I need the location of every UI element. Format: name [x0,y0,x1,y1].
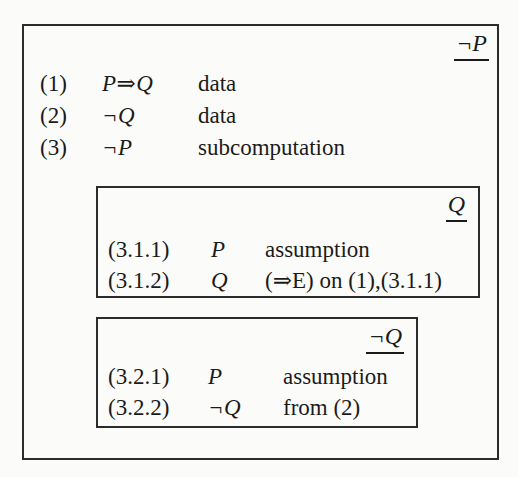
line-justification: from (2) [283,392,360,423]
line-number: (1) [40,68,102,100]
line-formula: ¬Q [102,100,198,132]
outer-proof-lines: (1) P⇒Q data (2) ¬Q data (3) ¬P subcompu… [40,68,491,164]
proof-line-3-1-2: (3.1.2) Q (⇒E) on (1),(3.1.1) [108,265,476,296]
line-formula: ¬P [102,132,198,164]
line-formula: Q [211,265,265,296]
line-number: (3) [40,132,102,164]
proof-line-1: (1) P⇒Q data [40,68,491,100]
subproof-not-q-lines: (3.2.1) P assumption (3.2.2) ¬Q from (2) [108,361,414,423]
subproof-q-goal-text: Q [446,191,467,222]
line-number: (3.1.1) [108,234,211,265]
subproof-q-lines: (3.1.1) P assumption (3.1.2) Q (⇒E) on (… [108,234,476,296]
line-justification: data [198,100,236,132]
subproof-box-q: Q (3.1.1) P assumption (3.1.2) Q (⇒E) on… [96,186,480,298]
outer-goal-label: ¬P [454,30,489,61]
line-justification: data [198,68,236,100]
subproof-q-goal-label: Q [446,191,467,222]
line-justification: (⇒E) on (1),(3.1.1) [265,265,442,296]
line-number: (3.2.1) [108,361,208,392]
subproof-box-not-q: ¬Q (3.2.1) P assumption (3.2.2) ¬Q from … [96,317,418,428]
line-justification: subcomputation [198,132,345,164]
line-number: (3.2.2) [108,392,208,423]
proof-line-3-2-1: (3.2.1) P assumption [108,361,414,392]
outer-goal-text: ¬P [454,30,489,61]
line-justification: assumption [283,361,388,392]
line-formula: P [211,234,265,265]
scanned-proof-figure: ¬P (1) P⇒Q data (2) ¬Q data (3) ¬P subco… [0,0,518,477]
line-justification: assumption [265,234,370,265]
subproof-not-q-goal-label: ¬Q [366,323,404,354]
line-formula: ¬Q [208,392,283,423]
outer-proof-box: ¬P (1) P⇒Q data (2) ¬Q data (3) ¬P subco… [22,24,499,460]
line-formula: P [208,361,283,392]
proof-line-2: (2) ¬Q data [40,100,491,132]
proof-line-3: (3) ¬P subcomputation [40,132,491,164]
proof-line-3-1-1: (3.1.1) P assumption [108,234,476,265]
line-number: (3.1.2) [108,265,211,296]
line-formula: P⇒Q [102,68,198,100]
subproof-not-q-goal-text: ¬Q [366,323,404,354]
proof-line-3-2-2: (3.2.2) ¬Q from (2) [108,392,414,423]
line-number: (2) [40,100,102,132]
